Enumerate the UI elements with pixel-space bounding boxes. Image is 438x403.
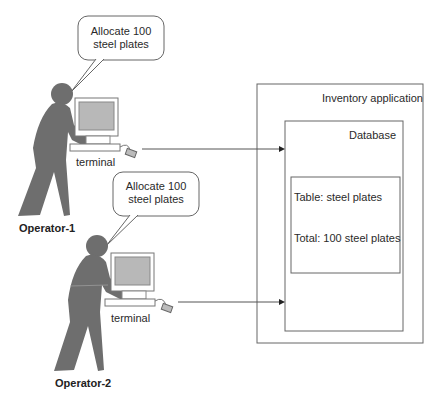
arrow-operator-2-to-database <box>178 299 285 305</box>
speech-text-operator-2: Allocate 100 steel plates <box>115 180 197 206</box>
speech-line-1: Allocate 100 <box>80 25 162 38</box>
terminal-1-label: terminal <box>76 156 115 168</box>
inventory-application-box <box>257 84 423 343</box>
inventory-application-title: Inventory application <box>322 92 423 104</box>
terminal-1-icon <box>70 98 137 158</box>
table-total: Total: 100 steel plates <box>294 232 400 244</box>
operator-1-label: Operator-1 <box>19 222 75 234</box>
database-box <box>285 121 403 331</box>
speech-text-operator-1: Allocate 100 steel plates <box>80 25 162 51</box>
speech-line-2: steel plates <box>80 38 162 51</box>
speech-line-2: steel plates <box>115 193 197 206</box>
terminal-2-icon <box>105 253 173 313</box>
speech-line-1: Allocate 100 <box>115 180 197 193</box>
database-title: Database <box>349 129 396 141</box>
terminal-2-label: terminal <box>111 312 150 324</box>
operator-2-label: Operator-2 <box>55 377 111 389</box>
arrow-operator-1-to-database <box>142 146 285 152</box>
table-name: Table: steel plates <box>294 191 382 203</box>
